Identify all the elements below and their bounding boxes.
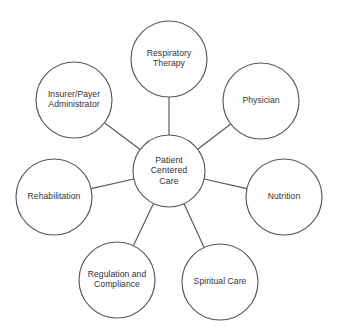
connector-line-spiritual-care xyxy=(184,204,204,248)
connector-line-insurer-payer-administrator xyxy=(104,123,140,150)
connector-line-physician xyxy=(198,124,231,149)
node-physician[interactable]: Physician xyxy=(223,63,299,139)
node-label-respiratory-therapy: Therapy xyxy=(153,58,186,68)
node-label-regulation-and-compliance: Compliance xyxy=(94,279,140,289)
node-spiritual-care[interactable]: Spiritual Care xyxy=(182,244,258,320)
node-label-nutrition: Nutrition xyxy=(268,191,301,201)
hub-and-spoke-diagram: RespiratoryTherapyPhysicianNutritionSpir… xyxy=(0,0,339,333)
node-patient-centered-care[interactable]: PatientCenteredCare xyxy=(133,135,205,207)
node-label-insurer-payer-administrator: Insurer/Payer xyxy=(48,89,100,99)
node-label-regulation-and-compliance: Regulation and xyxy=(88,269,147,279)
node-label-insurer-payer-administrator: Administrator xyxy=(48,99,99,109)
connector-line-nutrition xyxy=(204,179,247,189)
node-rehabilitation[interactable]: Rehabilitation xyxy=(16,159,92,235)
node-insurer-payer-administrator[interactable]: Insurer/PayerAdministrator xyxy=(36,62,112,138)
center-node-group: PatientCenteredCare xyxy=(133,135,205,207)
node-label-respiratory-therapy: Respiratory xyxy=(147,48,192,58)
node-label-patient-centered-care: Care xyxy=(159,176,178,186)
node-label-patient-centered-care: Patient xyxy=(155,155,183,165)
diagram-canvas: RespiratoryTherapyPhysicianNutritionSpir… xyxy=(0,0,339,333)
node-regulation-and-compliance[interactable]: Regulation andCompliance xyxy=(79,242,155,318)
node-label-spiritual-care: Spiritual Care xyxy=(194,276,247,286)
connector-line-rehabilitation xyxy=(91,179,134,189)
node-respiratory-therapy[interactable]: RespiratoryTherapy xyxy=(131,21,207,97)
node-label-physician: Physician xyxy=(242,95,279,105)
node-nutrition[interactable]: Nutrition xyxy=(246,159,322,235)
connector-line-regulation-and-compliance xyxy=(133,203,153,245)
node-label-rehabilitation: Rehabilitation xyxy=(28,191,81,201)
node-label-patient-centered-care: Centered xyxy=(151,165,188,175)
